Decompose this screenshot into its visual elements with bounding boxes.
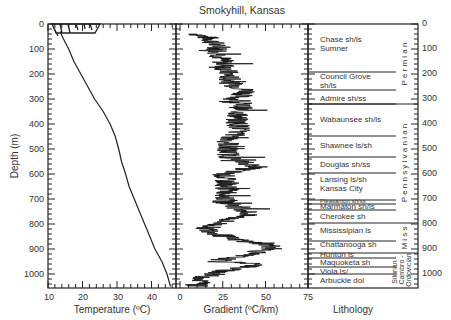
litho-viola: Viola ls/ <box>320 267 349 276</box>
svg-text:0: 0 <box>422 18 427 28</box>
gradient-series <box>185 34 281 286</box>
svg-text:0: 0 <box>39 19 44 29</box>
svg-text:900: 900 <box>29 244 44 254</box>
system-silurian: Silurian - <box>391 256 398 284</box>
litho-chase: Chase sh/ls <box>320 35 362 44</box>
surface-transient-profiles <box>52 24 100 36</box>
litho-wabaunsee: Wabaunsee sh/ls <box>320 115 381 124</box>
litho-admire: Admire sh/ss <box>320 94 366 103</box>
geologic-systems: P e r m i a n P e n n s y l v a n i a n … <box>391 43 412 287</box>
litho-arbuckle: Arbuckle dol <box>320 276 364 285</box>
litho-chattanooga: Chattanooga sh <box>320 240 377 249</box>
svg-text:700: 700 <box>422 193 437 203</box>
litho-shawnee: Shawnee ls/sh <box>320 141 372 150</box>
svg-text:25: 25 <box>218 292 228 302</box>
svg-text:30: 30 <box>113 292 123 302</box>
depth-axis-title: Depth (m) <box>9 134 20 178</box>
svg-text:75: 75 <box>303 292 313 302</box>
lithology-axis-title: Lithology <box>333 304 373 315</box>
svg-text:300: 300 <box>422 93 437 103</box>
svg-text:50: 50 <box>261 292 271 302</box>
litho-maquoketa: Maquoketa sh <box>320 258 370 267</box>
litho-lansing: Lansing ls/sh <box>320 175 367 184</box>
litho-council-grove: Council Grove <box>320 72 371 81</box>
depth-axis-ticks <box>48 24 55 284</box>
gradient-axis-title: Gradient (ºC/km) <box>204 304 279 315</box>
temperature-axis-title: Temperature (ºC) <box>74 304 150 315</box>
svg-text:1000: 1000 <box>422 268 442 278</box>
svg-text:100: 100 <box>422 43 437 53</box>
depth-axis-labels: 0 100 200 300 400 500 600 700 800 900 10… <box>24 19 44 279</box>
litho-sumner: Sumner <box>320 44 348 53</box>
svg-text:400: 400 <box>29 119 44 129</box>
svg-text:600: 600 <box>29 169 44 179</box>
gradient-axis-labels: 0 25 50 75 <box>177 292 313 302</box>
svg-text:900: 900 <box>422 243 437 253</box>
svg-text:800: 800 <box>422 218 437 228</box>
svg-text:40: 40 <box>147 292 157 302</box>
chart-canvas: Smokyhill, Kansas 0 100 200 300 400 500 … <box>0 0 451 320</box>
litho-marmaton: Marmaton sh/ls <box>320 202 375 211</box>
litho-cherokee: Cherokee sh <box>320 212 365 221</box>
system-pennsylvanian: P e n n s y l v a n i a n <box>400 124 409 203</box>
litho-council-grove-2: sh/ls <box>320 81 336 90</box>
system-cambro: Cambro - <box>398 255 405 285</box>
svg-text:200: 200 <box>422 68 437 78</box>
chart-title: Smokyhill, Kansas <box>199 4 285 16</box>
svg-text:400: 400 <box>422 118 437 128</box>
svg-text:1000: 1000 <box>24 269 44 279</box>
system-ordovician: Ordovician <box>405 253 412 287</box>
temperature-panel-frame <box>48 24 176 288</box>
svg-text:300: 300 <box>29 94 44 104</box>
svg-text:800: 800 <box>29 219 44 229</box>
svg-text:200: 200 <box>29 69 44 79</box>
svg-text:10: 10 <box>44 292 54 302</box>
svg-text:500: 500 <box>29 144 44 154</box>
temperature-axis-labels: 10 20 30 40 <box>44 292 157 302</box>
right-depth-axis-labels: 0 100 200 300 400 500 600 700 800 900 10… <box>422 18 442 278</box>
litho-douglas: Douglas sh/ss <box>320 160 370 169</box>
svg-text:100: 100 <box>29 44 44 54</box>
svg-text:500: 500 <box>422 143 437 153</box>
litho-kansas-city: Kansas City <box>320 184 363 193</box>
temperature-series <box>52 24 171 287</box>
svg-text:0: 0 <box>177 292 182 302</box>
system-permian: P e r m i a n <box>400 43 409 86</box>
svg-text:20: 20 <box>78 292 88 302</box>
system-mississippian: M i s s <box>400 226 409 249</box>
right-depth-axis-ticks <box>411 24 418 284</box>
svg-text:700: 700 <box>29 194 44 204</box>
svg-text:600: 600 <box>422 168 437 178</box>
litho-mississipian: Mississipian ls <box>320 226 371 235</box>
